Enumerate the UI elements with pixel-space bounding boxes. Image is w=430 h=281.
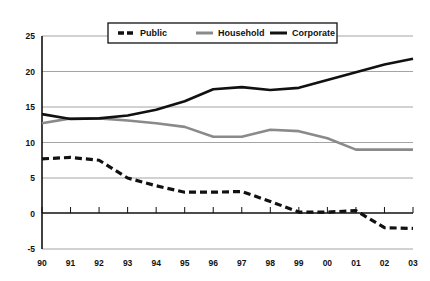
x-tick-label: 92	[94, 258, 104, 268]
legend-label-public: Public	[140, 28, 167, 38]
x-tick-label: 02	[380, 258, 390, 268]
x-tick-label: 98	[266, 258, 276, 268]
chart-container: -50510152025 909192939495969798990001020…	[0, 0, 430, 281]
legend-label-household: Household	[218, 28, 265, 38]
x-tick-label: 90	[37, 258, 47, 268]
x-tick-label: 97	[237, 258, 247, 268]
x-tick-label: 01	[351, 258, 361, 268]
x-tick-label: 93	[123, 258, 133, 268]
y-tick-label: 15	[26, 102, 36, 112]
y-tick-label: 20	[26, 67, 36, 77]
x-tick-label: 03	[408, 258, 418, 268]
y-tick-label: 10	[26, 138, 36, 148]
x-tick-label: 99	[294, 258, 304, 268]
y-tick-label: 25	[26, 31, 36, 41]
x-tick-label: 91	[66, 258, 76, 268]
y-tick-label: -5	[27, 244, 35, 254]
x-tick-label: 95	[180, 258, 190, 268]
x-tick-label: 94	[151, 258, 161, 268]
line-chart: -50510152025 909192939495969798990001020…	[0, 0, 430, 281]
y-tick-label: 0	[30, 209, 35, 219]
x-tick-label: 96	[208, 258, 218, 268]
y-tick-label: 5	[30, 173, 35, 183]
chart-legend: PublicHouseholdCorporate	[108, 23, 337, 43]
x-tick-label: 00	[323, 258, 333, 268]
legend-label-corporate: Corporate	[292, 28, 335, 38]
